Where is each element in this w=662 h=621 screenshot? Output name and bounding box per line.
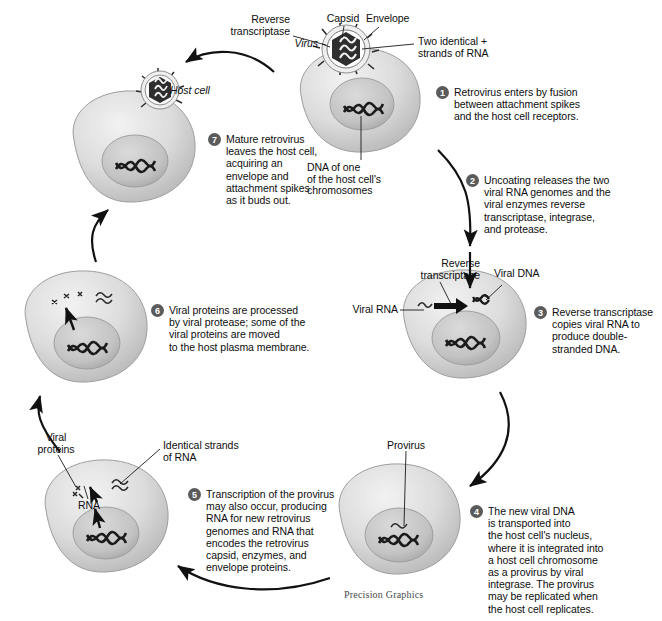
label-provirus: Provirus	[378, 440, 434, 452]
step-6: 6 Viral proteins are processed by viral …	[151, 304, 331, 353]
step-4-number: 4	[470, 505, 483, 518]
step-3-text: Reverse transcriptase copies viral RNA t…	[552, 306, 653, 355]
label-envelope: Envelope	[366, 13, 436, 25]
step-5-text: Transcription of the provirus may also o…	[206, 488, 334, 573]
step-2: 2 Uncoating releases the two viral RNA g…	[466, 174, 662, 235]
step-6-number: 6	[151, 304, 164, 317]
label-viral-proteins: Viral proteins	[30, 432, 82, 455]
label-virus: Virus	[256, 38, 318, 50]
label-host-cell: Host cell	[170, 85, 240, 97]
step-7: 7 Mature retrovirus leaves the host cell…	[208, 133, 328, 206]
label-capsid: Capsid	[316, 13, 370, 25]
step-1-text: Retrovirus enters by fusion between atta…	[454, 86, 580, 123]
label-viral-rna: Viral RNA	[330, 304, 398, 316]
step-5-number: 5	[188, 488, 201, 501]
label-two-strands-rna: Two identical + strands of RNA	[418, 36, 538, 59]
cell-provirus	[339, 464, 460, 574]
diagram-canvas: Reverse transcriptase Capsid Envelope Vi…	[0, 0, 662, 621]
step-1: 1 Retrovirus enters by fusion between at…	[436, 86, 652, 123]
label-reverse-transcriptase-mid: Reverse transcriptase	[396, 258, 480, 281]
step-7-number: 7	[208, 133, 221, 146]
step-3-number: 3	[534, 306, 547, 319]
label-reverse-transcriptase-top: Reverse transcriptase	[208, 14, 290, 37]
label-identical-strands-rna: Identical strands of RNA	[163, 440, 269, 463]
step-7-text: Mature retrovirus leaves the host cell, …	[226, 133, 317, 206]
step-4-text: The new viral DNA is transported into th…	[488, 505, 603, 615]
artwork-credit: Precision Graphics	[344, 589, 464, 600]
label-viral-dna: Viral DNA	[494, 268, 566, 280]
cell-budding	[73, 91, 195, 202]
label-rna: RNA	[78, 500, 118, 512]
step-3: 3 Reverse transcriptase copies viral RNA…	[534, 306, 662, 355]
step-2-number: 2	[466, 174, 479, 187]
step-1-number: 1	[436, 86, 449, 99]
cell-reverse-transcription	[403, 270, 526, 378]
step-6-text: Viral proteins are processed by viral pr…	[169, 304, 309, 353]
step-2-text: Uncoating releases the two viral RNA gen…	[484, 174, 611, 235]
cell-transcription	[45, 460, 168, 572]
step-4: 4 The new viral DNA is transported into …	[470, 505, 662, 615]
step-5: 5 Transcription of the provirus may also…	[188, 488, 352, 573]
cell-protein-processing	[25, 271, 147, 382]
